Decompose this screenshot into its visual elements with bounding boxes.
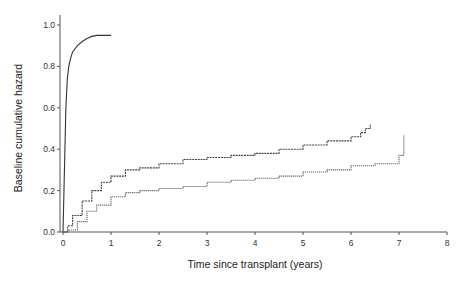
x-axis-label: Time since transplant (years) (188, 258, 323, 270)
y-tick-label: 1.0 (43, 20, 55, 30)
y-tick-label: 0.0 (43, 227, 55, 237)
y-tick-label: 0.8 (43, 61, 55, 71)
x-tick-label: 4 (253, 238, 258, 248)
plot-series (63, 35, 404, 232)
x-tick-label: 0 (61, 238, 66, 248)
series-line-3 (63, 135, 404, 232)
y-axis-label: Baseline cumulative hazard (12, 64, 24, 193)
x-tick-label: 7 (397, 238, 402, 248)
x-tick-label: 8 (445, 238, 450, 248)
series-line-1 (63, 35, 111, 232)
x-axis: 012345678 (60, 232, 450, 248)
x-tick-label: 3 (205, 238, 210, 248)
y-axis: 0.00.20.40.60.81.0 (43, 15, 60, 237)
x-tick-label: 5 (301, 238, 306, 248)
cumulative-hazard-chart: 0.00.20.40.60.81.0 012345678 Time since … (0, 0, 473, 281)
y-tick-label: 0.6 (43, 103, 55, 113)
y-tick-label: 0.4 (43, 144, 55, 154)
series-line-2 (63, 124, 370, 232)
x-tick-label: 2 (157, 238, 162, 248)
x-tick-label: 1 (109, 238, 114, 248)
x-tick-label: 6 (349, 238, 354, 248)
y-tick-label: 0.2 (43, 186, 55, 196)
